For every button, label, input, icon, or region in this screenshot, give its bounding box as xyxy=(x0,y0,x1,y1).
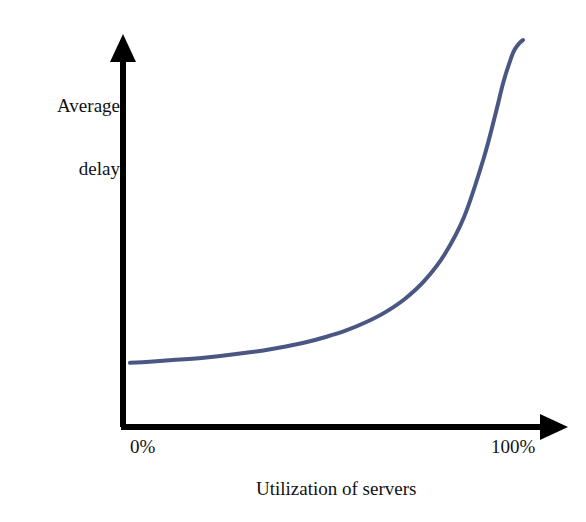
y-axis-title: Average delay xyxy=(57,52,120,222)
delay-curve-line xyxy=(130,40,523,363)
x-axis-title: Utilization of servers xyxy=(256,478,416,499)
x-tick-label-0: 0% xyxy=(130,436,155,457)
y-axis-title-line-2: delay xyxy=(57,158,120,179)
y-axis-title-line-1: Average xyxy=(57,95,120,116)
x-axis-arrowhead xyxy=(540,414,568,440)
x-tick-label-100: 100% xyxy=(491,436,535,457)
chart-figure: Average delay 0% 100% Utilization of ser… xyxy=(0,0,586,522)
